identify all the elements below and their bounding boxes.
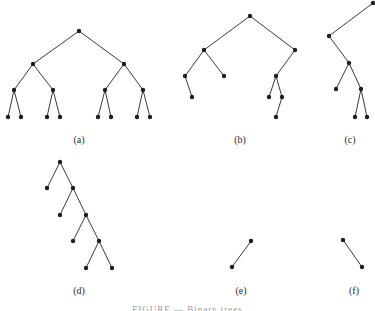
subfigure-label: (f)	[349, 285, 359, 297]
tree-c: (c)	[327, 1, 375, 146]
tree-edge	[60, 188, 73, 215]
tree-node	[222, 74, 226, 78]
tree-node	[353, 115, 357, 119]
tree-node	[365, 115, 369, 119]
tree-node	[141, 88, 145, 92]
tree-edge	[98, 90, 105, 117]
tree-edge	[47, 162, 60, 188]
tree-edge	[361, 89, 367, 117]
tree-node	[110, 266, 114, 270]
tree-edge	[204, 50, 224, 76]
tree-node	[31, 62, 35, 66]
subfigure-label: (d)	[73, 285, 85, 297]
tree-edge	[14, 90, 21, 117]
tree-edge	[137, 90, 143, 117]
tree-edge	[60, 162, 73, 188]
tree-node	[230, 265, 234, 269]
tree-node	[6, 115, 10, 119]
tree-edge	[33, 31, 79, 64]
tree-edge	[269, 76, 276, 97]
tree-edge	[276, 50, 295, 76]
tree-edge	[105, 90, 111, 117]
binary-trees-figure: (a) (b) (c) (d) (e) (f)	[0, 0, 375, 311]
tree-node	[96, 115, 100, 119]
tree-edge	[14, 64, 33, 90]
tree-edge	[86, 241, 99, 268]
tree-edge	[276, 76, 282, 97]
tree-node	[341, 238, 345, 242]
tree-node	[248, 14, 252, 18]
tree-edge	[8, 90, 14, 117]
tree-edge	[185, 76, 192, 97]
tree-edge	[86, 215, 99, 241]
tree-node	[51, 88, 55, 92]
tree-edge	[53, 90, 60, 117]
tree-node	[97, 239, 101, 243]
tree-edge	[185, 50, 204, 76]
tree-edge	[79, 31, 124, 64]
tree-node	[12, 88, 16, 92]
tree-edge	[73, 215, 86, 241]
tree-node	[267, 95, 271, 99]
tree-node	[360, 265, 364, 269]
tree-node	[19, 115, 23, 119]
subfigure-label: (e)	[235, 285, 246, 297]
tree-edge	[336, 63, 349, 89]
tree-edge	[33, 64, 53, 90]
tree-edge	[329, 3, 373, 36]
tree-a: (a)	[6, 29, 152, 146]
tree-node	[148, 115, 152, 119]
tree-node	[122, 62, 126, 66]
tree-node	[84, 266, 88, 270]
tree-node	[327, 34, 331, 38]
tree-edge	[343, 240, 362, 267]
tree-edge	[143, 90, 150, 117]
tree-node	[45, 115, 49, 119]
tree-node	[109, 115, 113, 119]
tree-edge	[47, 90, 53, 117]
subfigure-label: (b)	[234, 134, 246, 146]
tree-node	[58, 213, 62, 217]
tree-node	[71, 186, 75, 190]
tree-edge	[355, 89, 361, 117]
tree-d: (d)	[45, 160, 114, 297]
tree-edge	[124, 64, 143, 90]
tree-edge	[276, 97, 282, 117]
tree-node	[280, 95, 284, 99]
tree-e: (e)	[230, 239, 253, 297]
tree-node	[103, 88, 107, 92]
tree-node	[71, 239, 75, 243]
tree-node	[84, 213, 88, 217]
tree-edge	[204, 16, 250, 50]
tree-edge	[349, 63, 361, 89]
tree-node	[45, 186, 49, 190]
tree-node	[190, 95, 194, 99]
tree-node	[249, 239, 253, 243]
tree-b: (b)	[183, 14, 297, 146]
tree-node	[347, 61, 351, 65]
tree-node	[58, 160, 62, 164]
tree-node	[58, 115, 62, 119]
tree-node	[274, 115, 278, 119]
tree-edge	[232, 241, 251, 267]
tree-edge	[99, 241, 112, 268]
subfigure-label: (c)	[344, 134, 355, 146]
tree-edge	[250, 16, 295, 50]
tree-edge	[329, 36, 349, 63]
tree-node	[202, 48, 206, 52]
tree-edge	[73, 188, 86, 215]
tree-edge	[105, 64, 124, 90]
subfigure-label: (a)	[73, 134, 84, 146]
tree-node	[77, 29, 81, 33]
tree-node	[371, 1, 375, 5]
tree-node	[334, 87, 338, 91]
tree-node	[274, 74, 278, 78]
tree-f: (f)	[341, 238, 364, 297]
tree-node	[183, 74, 187, 78]
tree-node	[359, 87, 363, 91]
figure-caption: FIGURE — Binary trees	[0, 304, 375, 311]
tree-node	[293, 48, 297, 52]
tree-node	[135, 115, 139, 119]
